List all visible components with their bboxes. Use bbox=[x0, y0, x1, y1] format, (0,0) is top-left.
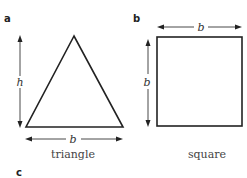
base-label: b bbox=[69, 133, 76, 146]
square-shape bbox=[157, 37, 242, 126]
panel-b: b b b square bbox=[133, 13, 242, 161]
square-height-label: b bbox=[143, 76, 150, 89]
panel-label-b: b bbox=[133, 13, 140, 24]
panel-label-a: a bbox=[4, 13, 11, 24]
height-label: h bbox=[16, 76, 23, 89]
triangle-shape bbox=[26, 36, 123, 127]
shapes-diagram: a h b triangle b b bbox=[0, 0, 247, 178]
panel-label-c: c bbox=[16, 167, 22, 178]
panel-a: a h b triangle bbox=[4, 13, 123, 161]
square-caption: square bbox=[188, 148, 226, 161]
triangle-caption: triangle bbox=[51, 148, 95, 161]
square-width-label: b bbox=[197, 21, 204, 34]
